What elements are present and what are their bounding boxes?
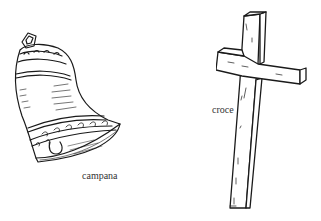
bell-illustration — [8, 30, 126, 170]
bell-label: campana — [82, 170, 118, 181]
cross-label: croce — [212, 104, 234, 115]
bell-icon — [8, 30, 126, 170]
